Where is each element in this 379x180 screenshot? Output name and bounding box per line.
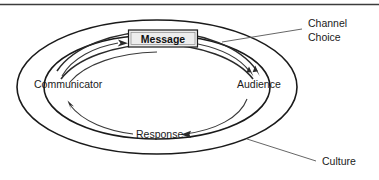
- message-box: Message: [129, 30, 198, 47]
- channel-choice-label-line2: Choice: [308, 31, 341, 43]
- audience-label: Audience: [237, 78, 281, 90]
- arc-audience-to-response: [185, 99, 247, 134]
- message-label: Message: [141, 33, 186, 45]
- diagram-canvas: Message Communicator Audience Response C…: [0, 0, 379, 180]
- arc-channel-band: [61, 44, 253, 79]
- arc-response-to-communicator: [70, 105, 133, 134]
- arrowhead-to-message: [118, 40, 128, 47]
- communication-model-svg: Message Communicator Audience Response C…: [0, 0, 379, 180]
- culture-leader-line: [247, 139, 316, 161]
- culture-label: Culture: [322, 155, 356, 167]
- response-label: Response: [136, 128, 183, 140]
- communicator-label: Communicator: [34, 78, 103, 90]
- channel-choice-label-line1: Channel: [308, 17, 347, 29]
